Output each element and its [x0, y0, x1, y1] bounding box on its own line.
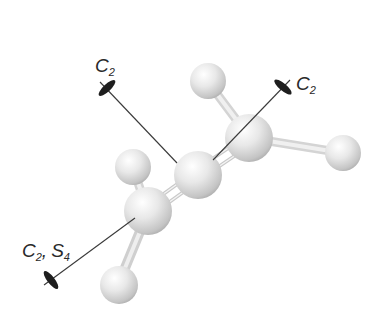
- label-c2-s4: C2,S4: [22, 240, 70, 263]
- axis-marker-icon: [41, 269, 60, 291]
- atoms: [100, 63, 361, 304]
- atom-hydrogen-top: [190, 63, 226, 99]
- axis-labels: C2 C2 C2,S4: [22, 55, 316, 263]
- atom-carbon-left: [124, 187, 172, 235]
- bonds: [118, 82, 343, 285]
- axis-marker-icon: [96, 78, 117, 98]
- atom-hydrogen-right: [325, 135, 361, 171]
- atom-carbon-right: [225, 114, 273, 162]
- symmetry-axes: [41, 77, 293, 291]
- atom-hydrogen-bottom: [100, 266, 138, 304]
- label-c2-upper-left: C2: [95, 55, 115, 78]
- axis-marker-icon: [272, 77, 293, 97]
- label-c2-upper-right: C2: [296, 73, 316, 96]
- atom-hydrogen-left-top: [115, 149, 151, 185]
- allene-symmetry-diagram: C2 C2 C2,S4: [0, 0, 379, 332]
